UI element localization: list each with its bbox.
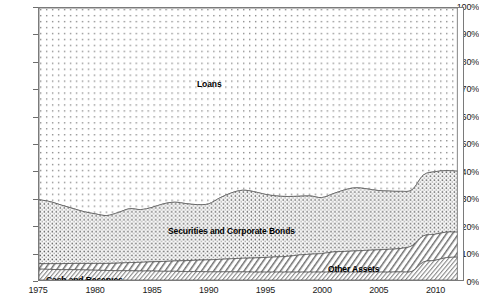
- series-label-securities: Securities and Corporate Bonds: [168, 227, 295, 236]
- x-axis-tick-label: 1975: [16, 286, 60, 295]
- x-axis-tick-label: 2010: [414, 286, 458, 295]
- area-band-loans: [39, 8, 457, 216]
- series-label-other-assets: Other Assets: [328, 265, 379, 274]
- x-axis-tick-label: 2000: [300, 286, 344, 295]
- area-series-svg: [39, 8, 463, 280]
- x-axis-tick-label: 1985: [130, 286, 174, 295]
- series-label-cash-and-reserves: Cash and Reserves: [46, 276, 123, 281]
- x-axis-tick-label: 1990: [187, 286, 231, 295]
- plot-area: Loans Securities and Corporate Bonds Oth…: [38, 7, 464, 281]
- x-axis-tick-label: 1995: [243, 286, 287, 295]
- y-axis-tick-mark: [33, 281, 38, 282]
- stacked-area-chart: 100% 90% 80% 70% 60% 50% 40% 30% 20% 10%…: [0, 0, 479, 306]
- series-label-loans: Loans: [197, 80, 222, 89]
- x-axis-tick-label: 2005: [357, 286, 401, 295]
- x-axis-tick-label: 1980: [73, 286, 117, 295]
